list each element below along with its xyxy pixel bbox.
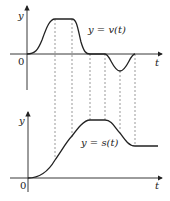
bottom-origin-label: 0 [20,180,26,191]
velocity-position-diagram: y t 0 y = v(t) y t 0 y = s(t) [0,0,170,201]
top-origin-label: 0 [18,56,24,67]
top-graph: y t 0 y = v(t) [10,6,162,90]
bottom-y-label: y [18,115,25,126]
top-y-label: y [17,10,24,21]
position-curve-label: y = s(t) [80,137,118,148]
bottom-t-label: t [155,180,160,191]
top-t-label: t [155,57,160,68]
bottom-graph: y t 0 y = s(t) [10,112,162,192]
velocity-curve-label: y = v(t) [87,24,126,35]
position-curve [28,120,158,178]
